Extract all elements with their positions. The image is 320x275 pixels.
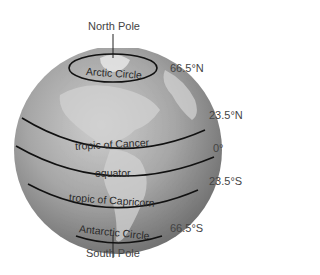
south-pole-label: South Pole	[86, 248, 140, 259]
north-pole-label: North Pole	[88, 21, 140, 32]
latitude-23-5-n: 23.5°N	[209, 110, 243, 121]
latitude-66-5-n: 66.5°N	[170, 63, 204, 74]
latitude-23-5-s: 23.5°S	[209, 176, 242, 187]
latitude-66-5-s: 66.5°S	[170, 223, 203, 234]
equator-label: equator	[95, 168, 131, 179]
latitude-0: 0°	[213, 143, 224, 154]
